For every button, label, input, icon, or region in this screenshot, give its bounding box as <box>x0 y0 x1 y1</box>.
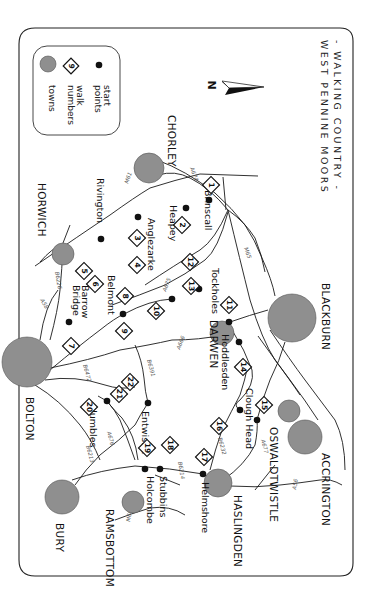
title-line2: WEST PENNINE MOORS <box>319 40 330 194</box>
walk-marker-5[interactable]: 5 <box>76 263 93 280</box>
walk-number: 21 <box>115 389 124 399</box>
walk-number: 22 <box>126 377 135 387</box>
walk-marker-3[interactable]: 3 <box>129 230 146 247</box>
walk-number: 1 <box>207 182 216 187</box>
town-label-ramsbottom: RAMSBOTTOM <box>104 509 116 587</box>
road-label-a674: A674 <box>189 165 200 182</box>
walk-number: 2 <box>178 222 187 227</box>
start-point-hoddlesden[interactable] <box>236 339 243 346</box>
walk-marker-8[interactable]: 8 <box>117 288 134 305</box>
road-label-b6214: B6214 <box>177 461 186 480</box>
town-label-chorley: CHORLEY <box>166 115 178 167</box>
road-horwich-north <box>63 225 70 243</box>
place-label-brinscall: Brinscall <box>203 190 214 230</box>
walk-number: 5 <box>80 268 89 273</box>
road-label-a56: A56 <box>291 478 299 491</box>
start-point-belmont[interactable] <box>120 311 127 318</box>
road-label-b6232: B6232 <box>217 437 228 456</box>
walk-marker-10[interactable]: 10 <box>148 303 165 320</box>
town-bolton[interactable] <box>2 337 52 387</box>
walk-marker-9[interactable]: 9 <box>116 323 133 340</box>
walk-marker-7[interactable]: 7 <box>63 338 80 355</box>
walk-marker-17[interactable]: 17 <box>196 449 213 466</box>
road-label-a676: A676 <box>106 430 116 447</box>
north-arrow-outline <box>222 81 264 88</box>
town-label-darwen: DARWEN <box>208 320 220 369</box>
road-label-b6391: B6391 <box>146 359 156 378</box>
legend-start-point-icon <box>96 62 103 69</box>
town-label-oswaldtwistle: OSWALDTWISTLE <box>268 427 280 522</box>
start-point-helmshore[interactable] <box>200 471 207 478</box>
town-label-bolton: BOLTON <box>24 397 36 441</box>
start-point-heapey[interactable] <box>183 205 190 212</box>
walk-number: 3 <box>133 235 142 240</box>
town-label-horwich: HORWICH <box>36 183 48 237</box>
title-block: - WALKING COUNTRY - WEST PENNINE MOORS <box>319 40 343 194</box>
place-label-clough-head: Clough Head <box>244 388 255 449</box>
start-point-barrow-bridge[interactable] <box>66 319 73 326</box>
legend-towns-label: towns <box>47 85 57 112</box>
start-point-stubbins[interactable] <box>157 466 164 473</box>
legend-walk-label-2: numbers <box>66 85 76 125</box>
place-label-rivington: Rivington <box>95 178 106 223</box>
walking-country-map: - WALKING COUNTRY - WEST PENNINE MOORS s… <box>0 0 372 609</box>
walk-marker-11[interactable]: 11 <box>221 297 238 314</box>
walk-marker-16[interactable]: 16 <box>211 418 228 435</box>
north-label: N <box>205 80 218 89</box>
road-label-a666: A666 <box>175 334 186 351</box>
walk-marker-13[interactable]: 13 <box>183 278 200 295</box>
walk-number: 19 <box>143 443 152 453</box>
town-chorley[interactable] <box>134 153 164 183</box>
start-point-entwistle[interactable] <box>145 400 152 407</box>
road-label-m61: M61 <box>123 171 133 184</box>
town-label-bury: BURY <box>54 523 66 552</box>
walk-number: 16 <box>215 421 224 431</box>
walk-number: 8 <box>121 293 130 298</box>
walk-number: 11 <box>225 300 234 310</box>
town-label-haslingden: HASLINGDEN <box>232 495 244 567</box>
town-accrington[interactable] <box>288 420 322 454</box>
place-label-helmshore: Helmshore <box>200 482 211 533</box>
walk-number: 10 <box>152 306 161 316</box>
walk-number: 17 <box>200 452 209 462</box>
walk-number: 14 <box>239 362 248 372</box>
place-label-anglezarke: Anglezarke <box>146 218 157 271</box>
start-point-clough-head[interactable] <box>237 407 244 414</box>
start-point-walk-10[interactable] <box>169 296 176 303</box>
start-point-rivington[interactable] <box>98 236 105 243</box>
road-a666 <box>50 335 222 368</box>
walk-marker-4[interactable]: 4 <box>129 257 146 274</box>
town-blackburn[interactable] <box>268 294 316 342</box>
walk-number: 4 <box>133 262 142 267</box>
road-b6391 <box>135 345 148 403</box>
town-label-blackburn: BLACKBURN <box>320 283 332 350</box>
walk-number: 20 <box>85 402 94 412</box>
town-ramsbottom[interactable] <box>122 491 144 513</box>
start-point-holcombe[interactable] <box>142 466 149 473</box>
walk-number: 12 <box>186 257 195 267</box>
legend: start points 9 walk numbers towns <box>33 46 120 135</box>
start-point-darwen[interactable] <box>226 319 233 326</box>
walk-number: 15 <box>260 400 269 410</box>
place-label-tockholes: Tockholes <box>210 267 221 314</box>
road-label-a675: A675 <box>161 276 172 293</box>
town-label-accrington: ACCRINGTON <box>320 453 332 526</box>
legend-walk-sample: 9 <box>67 63 76 68</box>
walk-marker-12[interactable]: 12 <box>182 254 199 271</box>
start-point-anglezarke[interactable] <box>135 214 142 221</box>
road-label-m65: M65 <box>243 246 253 260</box>
town-horwich[interactable] <box>52 243 74 265</box>
title-line1: - WALKING COUNTRY - <box>332 40 343 191</box>
walk-number: 18 <box>166 440 175 450</box>
walk-number: 9 <box>120 328 129 333</box>
town-bury[interactable] <box>45 480 79 514</box>
walk-marker-15[interactable]: 15 <box>256 397 273 414</box>
walk-number: 7 <box>67 343 76 348</box>
walk-marker-18[interactable]: 18 <box>162 437 179 454</box>
town-oswaldtwistle[interactable] <box>278 400 300 422</box>
place-label-hoddlesden: Hoddlesden <box>220 334 231 390</box>
place-label-barrow-bridge-2: Bridge <box>71 285 82 316</box>
start-point-jumbles[interactable] <box>104 398 111 405</box>
place-label-belmont: Belmont <box>106 275 117 315</box>
walk-number: 6 <box>91 281 100 286</box>
